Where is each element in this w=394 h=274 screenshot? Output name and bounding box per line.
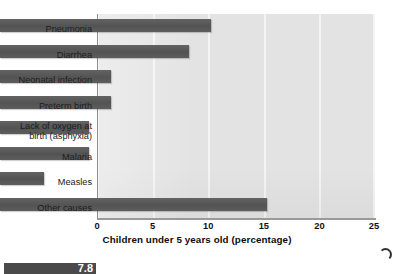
x-tick-15: 15 <box>249 221 279 231</box>
category-label-lack-of-oxygen: Lack of oxygen at birth (asphyxia) <box>0 121 92 142</box>
figure-caption-band: 7.8 <box>4 263 96 274</box>
category-label-other-causes: Other causes <box>0 203 92 214</box>
x-tick-0: 0 <box>82 221 112 231</box>
category-label-measles: Measles <box>0 177 92 188</box>
category-label-pneumonia: Pneumonia <box>0 24 92 35</box>
category-label-diarrhea: Diarrhea <box>0 50 92 61</box>
x-tick-20: 20 <box>304 221 334 231</box>
page-corner-mark <box>379 248 392 261</box>
x-tick-10: 10 <box>193 221 223 231</box>
bar-chart-figure: Pneumonia Diarrhea Neonatal infection Pr… <box>0 0 394 274</box>
x-tick-25: 25 <box>359 221 389 231</box>
category-label-malaria: Malaria <box>0 152 92 163</box>
figure-number: 7.8 <box>78 263 93 274</box>
x-axis-line <box>97 218 376 220</box>
x-tick-5: 5 <box>138 221 168 231</box>
category-label-neonatal-infection: Neonatal infection <box>0 75 92 86</box>
x-axis-title: Children under 5 years old (percentage) <box>0 234 394 245</box>
category-label-preterm-birth: Preterm birth <box>0 101 92 112</box>
